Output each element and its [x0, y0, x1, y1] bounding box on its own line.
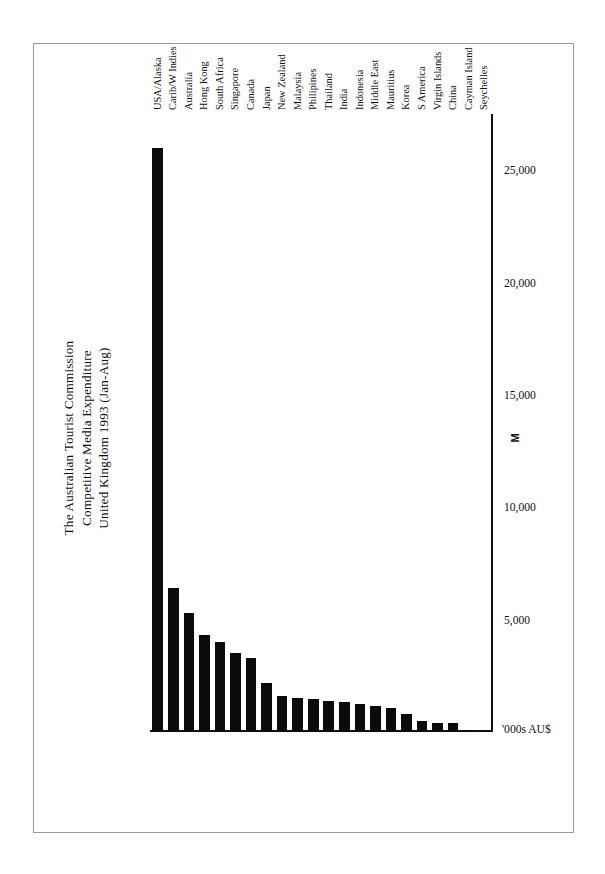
category-label: Indonesia [354, 70, 364, 110]
bar-hong-kong [199, 635, 210, 732]
category-label: South Africa [214, 57, 224, 110]
bar-row: Mauritius [385, 114, 396, 732]
tick-label: 5,000 [494, 594, 507, 620]
scanned-page: The Australian Tourist Commission Compet… [0, 0, 605, 874]
category-label: Singapore [230, 68, 240, 110]
bar-thailand [323, 701, 334, 732]
bar-carib-w-indies [168, 588, 179, 732]
bar-row: S America [416, 114, 427, 732]
bar-malaysia [292, 698, 303, 732]
chart-title-line-1: The Australian Tourist Commission [60, 66, 78, 810]
bar-korea [401, 714, 412, 732]
bar-philipines [307, 699, 318, 732]
category-label: Mauritius [385, 70, 395, 110]
category-label: Australia [183, 72, 193, 110]
tick-label: 25,000 [494, 138, 507, 170]
bar-row: China [447, 114, 458, 732]
bar-mauritius [385, 708, 396, 732]
bar-japan [261, 683, 272, 732]
category-label: Middle East [370, 59, 380, 110]
bar-row: Canada [245, 114, 256, 732]
plot-area: USA/AlaskaCarib/W IndiesAustraliaHong Ko… [150, 114, 492, 732]
bar-s-america [416, 721, 427, 732]
bar-row: Japan [261, 114, 272, 732]
bar-row: Philipines [307, 114, 318, 732]
category-label: China [447, 85, 457, 110]
category-label: Seychelles [479, 66, 489, 110]
page-border-frame: The Australian Tourist Commission Compet… [33, 43, 574, 833]
bar-virgin-islands [432, 723, 443, 732]
rotated-chart-canvas: The Australian Tourist Commission Compet… [54, 66, 554, 810]
chart-title-line-2: Competitive Media Expenditure [77, 66, 95, 810]
bar-row: Cayman Island [463, 114, 474, 732]
bar-cayman-island [463, 730, 474, 732]
category-label: Virgin Islands [432, 52, 442, 110]
category-label: India [339, 89, 349, 110]
category-label: Thailand [323, 73, 333, 110]
bar-row: Korea [401, 114, 412, 732]
bar-singapore [230, 653, 241, 732]
bar-south-africa [214, 642, 225, 732]
bar-middle-east [370, 706, 381, 732]
bar-seychelles [478, 731, 489, 732]
category-label: S America [416, 66, 426, 110]
bar-australia [183, 613, 194, 732]
bar-row: New Zealand [276, 114, 287, 732]
bar-row: Seychelles [478, 114, 489, 732]
category-label: Canada [245, 79, 255, 110]
category-label: New Zealand [276, 54, 286, 110]
category-label: Philipines [308, 68, 318, 110]
bar-usa-alaska [152, 148, 163, 732]
tick-label: 20,000 [494, 251, 507, 283]
bar-indonesia [354, 704, 365, 732]
category-label: Malaysia [292, 72, 302, 110]
bar-row: Malaysia [292, 114, 303, 732]
bar-china [447, 723, 458, 732]
category-label: Carib/W Indies [168, 46, 178, 110]
bar-row: Indonesia [354, 114, 365, 732]
bar-row: Carib/W Indies [168, 114, 179, 732]
chart-title-line-3: United Kingdom 1993 (Jan-Aug) [95, 66, 113, 810]
bar-row: India [339, 114, 350, 732]
bar-new-zealand [276, 696, 287, 732]
category-label: Korea [401, 85, 411, 110]
bar-row: Australia [183, 114, 194, 732]
tick-label: 10,000 [494, 475, 507, 507]
bar-row: Hong Kong [199, 114, 210, 732]
bar-row: Thailand [323, 114, 334, 732]
value-axis-ticks: 25,00020,00015,00010,0005,000 [494, 114, 564, 732]
bar-row: Middle East [370, 114, 381, 732]
category-label: USA/Alaska [152, 57, 162, 110]
category-label: Japan [261, 86, 271, 110]
bar-series: USA/AlaskaCarib/W IndiesAustraliaHong Ko… [150, 114, 492, 732]
category-label: Cayman Island [463, 47, 473, 110]
bar-canada [245, 658, 256, 732]
bar-india [339, 702, 350, 732]
bar-row: South Africa [214, 114, 225, 732]
bar-row: USA/Alaska [152, 114, 163, 732]
category-label: Hong Kong [199, 61, 209, 110]
footer-label: M [509, 66, 521, 810]
bar-row: Singapore [230, 114, 241, 732]
chart-title: The Australian Tourist Commission Compet… [60, 66, 113, 810]
bar-row: Virgin Islands [432, 114, 443, 732]
tick-label: 15,000 [494, 363, 507, 395]
